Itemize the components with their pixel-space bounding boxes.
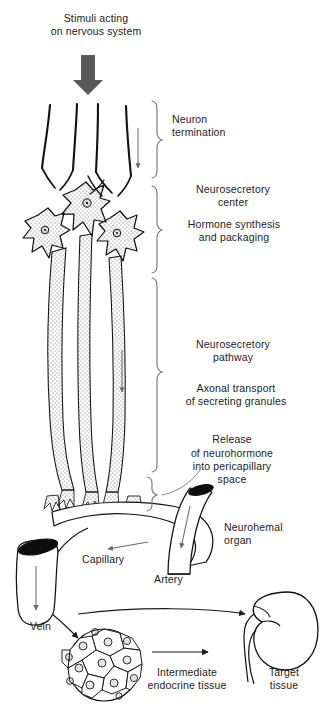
vein-to-target-arrow [78,609,245,614]
neurosecretory-center-label: Neurosecretory center [168,183,298,209]
release-detail-label: of neurohormone into pericapillary space [164,447,300,486]
neuron-termination-label: Neuron termination [172,113,292,139]
hormone-synthesis-label: Hormone synthesis and packaging [166,218,302,244]
endocrine-cell-cluster-icon [62,629,142,701]
brace-neurosecretory-center [152,186,162,273]
target-tissue-label: Target tissue [254,666,314,692]
brace-neurosecretory-pathway [152,278,162,472]
neurosecretory-pathway-label: Neurosecretory pathway [168,338,298,364]
vein-icon [17,528,89,625]
axon-tract-icon [48,234,125,492]
brace-neuron-termination [152,101,162,178]
release-label: Release [166,433,298,446]
capillary-flow-arrow [108,542,148,549]
stimuli-label: Stimuli acting on nervous system [36,12,156,38]
artery-label: Artery [154,573,214,586]
axonal-transport-label: Axonal transport of secreting granules [164,382,308,408]
intermediate-endocrine-label: Intermediate endocrine tissue [140,666,234,692]
diagram-canvas: Stimuli acting on nervous system Neuron … [0,0,327,712]
vein-label: Vein [30,620,82,633]
neurohemal-organ-label: Neurohemal organ [224,521,320,547]
stimulus-arrow-icon [73,55,103,95]
capillary-label: Capillary [82,553,162,566]
